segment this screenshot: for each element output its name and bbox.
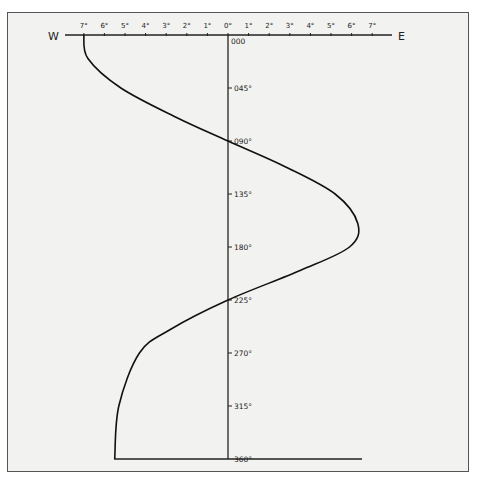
y-tick-label: 180° — [234, 243, 252, 252]
y-tick-label: 225° — [234, 296, 252, 305]
x-tick-label: 4° — [142, 22, 150, 30]
east-label: E — [398, 30, 405, 43]
y-tick-label: 135° — [234, 190, 252, 199]
x-tick-label: 7° — [368, 22, 376, 30]
x-tick-label: 1° — [245, 22, 253, 30]
x-tick-label: 5° — [327, 22, 335, 30]
y-tick-label: 270° — [234, 349, 252, 358]
x-tick-label: 2° — [183, 22, 191, 30]
x-tick-label: 3° — [286, 22, 294, 30]
x-axis-ticks: 7°6°5°4°3°2°1°0°1°2°3°4°5°6°7° — [80, 22, 376, 36]
y-tick-label: 360° — [234, 455, 252, 464]
x-tick-label: 0° — [224, 22, 232, 30]
deviation-chart: 7°6°5°4°3°2°1°0°1°2°3°4°5°6°7° 000045°09… — [0, 0, 477, 480]
x-tick-label: 1° — [203, 22, 211, 30]
x-tick-label: 6° — [348, 22, 356, 30]
deviation-curve — [84, 35, 359, 459]
west-label: W — [48, 30, 59, 43]
x-tick-label: 5° — [121, 22, 129, 30]
y-tick-label: 000 — [231, 37, 246, 46]
x-tick-label: 7° — [80, 22, 88, 30]
x-tick-label: 2° — [265, 22, 273, 30]
y-tick-label: 315° — [234, 402, 252, 411]
y-axis-ticks: 000045°090°135°180°225°270°315°360° — [228, 37, 252, 464]
x-tick-label: 3° — [162, 22, 170, 30]
x-tick-label: 6° — [100, 22, 108, 30]
x-tick-label: 4° — [306, 22, 314, 30]
y-tick-label: 045° — [234, 84, 252, 93]
